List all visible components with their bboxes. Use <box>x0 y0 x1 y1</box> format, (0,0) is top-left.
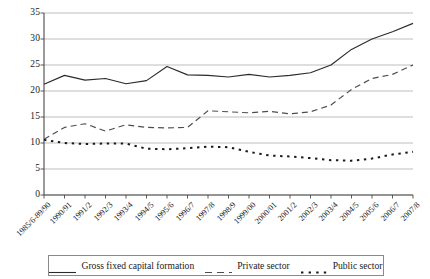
legend-label: Public sector <box>333 261 383 271</box>
legend-label: Gross fixed capital formation <box>81 261 194 271</box>
legend-item-public-sector: Public sector <box>301 261 383 271</box>
line-chart-figure: 05101520253035 1985/6-89/901990/911991/2… <box>0 0 430 279</box>
x-axis-tick-labels: 1985/6-89/901990/911991/21992/31993/4199… <box>0 0 430 279</box>
legend-label: Private sector <box>237 261 289 271</box>
solid-line-swatch <box>49 262 76 269</box>
dashed-line-swatch <box>205 262 232 269</box>
legend-item-gross-fixed-capital-formation: Gross fixed capital formation <box>49 261 194 271</box>
dotted-line-swatch <box>301 262 328 269</box>
legend-item-private-sector: Private sector <box>205 261 289 271</box>
chart-legend: Gross fixed capital formation Private se… <box>48 255 384 276</box>
